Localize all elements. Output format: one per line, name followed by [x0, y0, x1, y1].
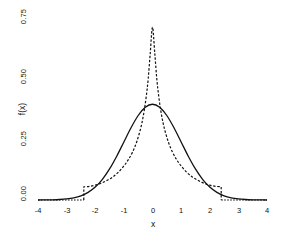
x-tick-label--4: -4	[29, 206, 47, 215]
x-tick-label-2: 2	[201, 206, 219, 215]
series-solid-density	[38, 104, 267, 200]
x-tick-label--3: -3	[58, 206, 76, 215]
series-dashed-density	[84, 27, 221, 200]
x-tick-label--1: -1	[115, 206, 133, 215]
y-tick-label-025: 0.25	[19, 126, 28, 152]
figure-container: 0.75 0.50 f(x) 0.25 0.00 -4 -3 -2 -1 0 1…	[0, 0, 282, 234]
x-axis-title: x	[143, 219, 163, 229]
y-axis-title: f(x)	[17, 96, 27, 122]
x-tick-label-1: 1	[172, 206, 190, 215]
chart-canvas	[0, 0, 282, 234]
x-tick-label-3: 3	[230, 206, 248, 215]
x-tick-label--2: -2	[86, 206, 104, 215]
x-tick-label-4: 4	[258, 206, 276, 215]
y-tick-label-000: 0.00	[19, 181, 28, 207]
y-tick-label-050: 0.50	[19, 64, 28, 90]
series-group	[38, 27, 267, 200]
y-tick-label-075: 0.75	[19, 4, 28, 30]
x-tick-label-0: 0	[144, 206, 162, 215]
